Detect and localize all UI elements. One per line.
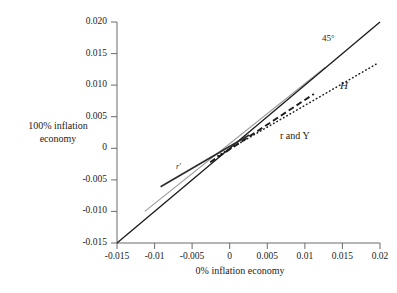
y-tick-label: 0.010 [62,80,107,90]
y-tick-label: -0.005 [59,175,107,185]
y-tick-label: 0.020 [62,17,107,27]
annotation-H: H [340,80,348,91]
annotation-r-prime: r′ [176,163,181,171]
chart-figure: 0.020 0.015 0.010 0.005 0 -0.005 -0.010 … [0,0,397,293]
x-axis-title: 0% inflation economy [140,265,340,278]
y-axis-title-line1: 100% inflation [4,120,112,133]
annotation-45-degree: 45° [322,34,335,43]
x-tick-label: 0.02 [360,252,397,262]
series-H [218,64,377,156]
x-axis-ticks [117,243,380,249]
y-tick-label: 0.015 [62,49,107,59]
annotation-r-and-Y: r and Y [280,131,310,141]
series-r-prime [161,135,250,187]
series-45-degree [117,22,380,243]
y-axis-title: 100% inflation economy [4,120,112,145]
y-tick-label: -0.010 [59,206,107,216]
x-tick-label: 0.005 [244,252,290,262]
chart-plot-area [0,0,397,293]
x-tick-label: 0.015 [319,252,365,262]
y-tick-label: -0.015 [59,238,107,248]
y-axis-title-line2: economy [4,133,112,146]
